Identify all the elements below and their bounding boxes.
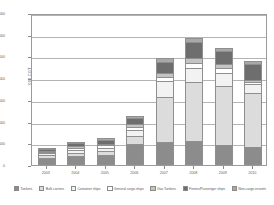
bar-group[interactable] xyxy=(97,138,115,165)
bar-segment[interactable] xyxy=(185,141,203,165)
legend-item[interactable]: Container ships xyxy=(71,186,101,191)
x-tick-label: 2006 xyxy=(119,171,149,175)
y-tick-label: 0 xyxy=(0,164,5,168)
bar-segment[interactable] xyxy=(244,93,262,146)
stacked-bar-chart: '000 CGT 010,00020,00030,00040,00050,000… xyxy=(0,0,274,205)
y-tick-label: 30,000 xyxy=(0,99,5,103)
bar-segment[interactable] xyxy=(67,156,85,165)
x-tick-mark xyxy=(164,166,165,169)
bar-segment[interactable] xyxy=(185,82,203,140)
bar-segment[interactable] xyxy=(126,136,144,144)
y-tick-label: 40,000 xyxy=(0,77,5,81)
bar-segment[interactable] xyxy=(215,51,233,64)
x-tick-mark xyxy=(46,166,47,169)
legend-label: Tankers xyxy=(21,187,33,191)
legend-label: Bulk carriers xyxy=(46,187,64,191)
y-tick-mark xyxy=(28,36,31,37)
y-tick-mark xyxy=(28,14,31,15)
bar-segment[interactable] xyxy=(185,68,203,82)
x-tick-mark xyxy=(193,166,194,169)
chart-legend: TankersBulk carriersContainer shipsGener… xyxy=(14,186,266,191)
bar-group[interactable] xyxy=(126,116,144,165)
gridline xyxy=(32,15,266,16)
bar-segment[interactable] xyxy=(244,84,262,93)
legend-swatch-icon xyxy=(150,186,155,191)
y-tick-mark xyxy=(28,101,31,102)
bar-group[interactable] xyxy=(38,148,56,165)
legend-item[interactable]: Tankers xyxy=(14,186,32,191)
legend-label: Ferries/Passenger ships xyxy=(189,187,225,191)
legend-swatch-icon xyxy=(183,186,188,191)
bar-segment[interactable] xyxy=(185,42,203,58)
x-tick-label: 2010 xyxy=(237,171,267,175)
x-tick-label: 2005 xyxy=(90,171,120,175)
legend-label: General cargo ships xyxy=(114,187,144,191)
bar-segment[interactable] xyxy=(156,62,174,73)
x-tick-mark xyxy=(252,166,253,169)
legend-item[interactable]: Non-cargo vessels xyxy=(232,186,266,191)
bar-segment[interactable] xyxy=(244,64,262,80)
x-tick-mark xyxy=(105,166,106,169)
bar-segment[interactable] xyxy=(97,155,115,165)
x-tick-label: 2004 xyxy=(60,171,90,175)
x-tick-mark xyxy=(75,166,76,169)
legend-label: Container ships xyxy=(77,187,100,191)
legend-swatch-icon xyxy=(39,186,44,191)
bar-group[interactable] xyxy=(215,48,233,165)
legend-item[interactable]: Ferries/Passenger ships xyxy=(183,186,225,191)
x-tick-label: 2007 xyxy=(149,171,179,175)
bar-segment[interactable] xyxy=(244,147,262,165)
x-tick-mark xyxy=(223,166,224,169)
x-tick-mark xyxy=(134,166,135,169)
bar-segment[interactable] xyxy=(156,97,174,141)
plot-area xyxy=(31,14,267,166)
legend-swatch-icon xyxy=(232,186,237,191)
legend-label: Non-cargo vessels xyxy=(238,187,266,191)
legend-item[interactable]: Gas Tankers xyxy=(150,186,175,191)
legend-swatch-icon xyxy=(14,186,19,191)
bar-segment[interactable] xyxy=(38,158,56,165)
y-tick-label: 20,000 xyxy=(0,121,5,125)
y-tick-label: 60,000 xyxy=(0,34,5,38)
x-tick-label: 2009 xyxy=(208,171,238,175)
x-tick-label: 2003 xyxy=(31,171,61,175)
bar-segment[interactable] xyxy=(156,81,174,97)
bar-group[interactable] xyxy=(67,142,85,165)
legend-swatch-icon xyxy=(71,186,76,191)
bar-group[interactable] xyxy=(244,61,262,165)
bar-segment[interactable] xyxy=(215,145,233,165)
bar-group[interactable] xyxy=(185,38,203,165)
legend-label: Gas Tankers xyxy=(157,187,176,191)
bar-segment[interactable] xyxy=(126,144,144,165)
legend-item[interactable]: Bulk carriers xyxy=(39,186,64,191)
gridline xyxy=(32,37,266,38)
y-tick-mark xyxy=(28,123,31,124)
y-tick-label: 10,000 xyxy=(0,142,5,146)
bar-group[interactable] xyxy=(156,58,174,165)
legend-swatch-icon xyxy=(107,186,112,191)
y-tick-mark xyxy=(28,144,31,145)
x-tick-label: 2008 xyxy=(178,171,208,175)
bar-segment[interactable] xyxy=(215,86,233,144)
y-tick-mark xyxy=(28,79,31,80)
y-tick-mark xyxy=(28,57,31,58)
y-tick-label: 70,000 xyxy=(0,12,5,16)
y-tick-label: 50,000 xyxy=(0,55,5,59)
bar-segment[interactable] xyxy=(156,142,174,165)
y-tick-mark xyxy=(28,166,31,167)
legend-item[interactable]: General cargo ships xyxy=(107,186,143,191)
bar-segment[interactable] xyxy=(215,73,233,86)
